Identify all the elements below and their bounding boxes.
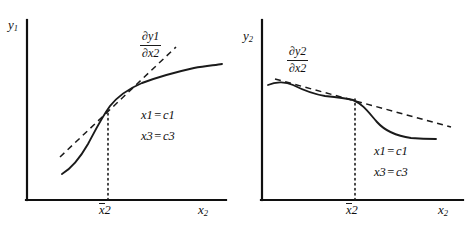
chart-panel-right: y2 x2 ∂y2 ∂x2 x1=c1 x3=c3 x2 xyxy=(235,0,469,232)
x-axis-label: x2 xyxy=(198,203,208,216)
partial-derivative-label: ∂y2 ∂x2 xyxy=(287,45,308,76)
derivative-denominator: ∂x2 xyxy=(140,45,161,61)
right-panel-plot xyxy=(235,0,469,232)
conditions-block: x1=c1 x3=c3 xyxy=(141,105,175,146)
condition-row: x1=c1 xyxy=(374,141,408,162)
tangent-line xyxy=(275,79,451,127)
xbar-tick-label: x2 xyxy=(346,203,358,218)
derivative-denominator: ∂x2 xyxy=(287,60,308,76)
figure-container: y1 x2 ∂y1 ∂x2 x1=c1 x3=c3 x2 xyxy=(0,0,469,232)
derivative-numerator: ∂y1 xyxy=(140,30,161,44)
condition-row: x1=c1 xyxy=(141,105,175,126)
conditions-block: x1=c1 x3=c3 xyxy=(374,141,408,182)
chart-panel-left: y1 x2 ∂y1 ∂x2 x1=c1 x3=c3 x2 xyxy=(0,0,234,232)
y-axis-label: y2 xyxy=(243,29,253,42)
response-curve xyxy=(268,82,436,139)
derivative-numerator: ∂y2 xyxy=(287,45,308,59)
y-axis-label: y1 xyxy=(8,18,18,31)
partial-derivative-label: ∂y1 ∂x2 xyxy=(140,30,161,61)
x-axis-label: x2 xyxy=(438,203,448,216)
condition-row: x3=c3 xyxy=(374,162,408,183)
condition-row: x3=c3 xyxy=(141,126,175,147)
left-panel-plot xyxy=(0,0,234,232)
xbar-tick-label: x2 xyxy=(99,203,111,218)
